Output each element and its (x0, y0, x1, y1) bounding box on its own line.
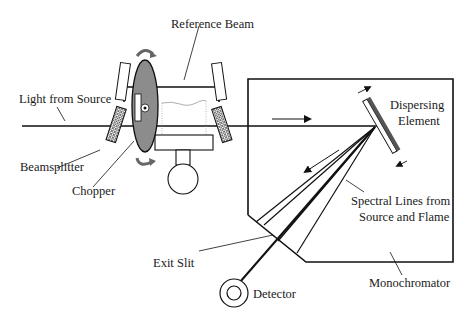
label-detector: Detector (253, 287, 296, 301)
label-beamsplitter: Beamsplitter (20, 160, 84, 174)
right-beamsplitter (212, 106, 232, 142)
burner-head (155, 135, 213, 150)
spectral-lines (256, 127, 375, 253)
label-spectral-lines-2: Source and Flame (359, 210, 449, 224)
nebulizer-bulb (168, 164, 198, 194)
right-mirror (212, 62, 227, 100)
left-beamsplitter (106, 106, 126, 142)
label-monochromator: Monochromator (369, 276, 450, 290)
leader-lines (57, 26, 402, 275)
detector-icon (220, 279, 248, 307)
chopper (132, 60, 158, 152)
label-reference-beam: Reference Beam (171, 17, 254, 31)
label-dispersing-element-2: Element (398, 114, 440, 128)
label-light-from-source: Light from Source (19, 92, 111, 106)
flame-region (162, 100, 206, 135)
rotation-arrow-bottom-icon (137, 158, 156, 166)
label-chopper: Chopper (72, 184, 115, 198)
burner-stem (176, 150, 190, 165)
grating-arrow-top-icon (358, 87, 370, 93)
rotation-arrow-top-icon (137, 50, 157, 58)
label-dispersing-element-1: Dispersing (390, 98, 444, 112)
left-mirror (115, 62, 130, 100)
label-exit-slit: Exit Slit (153, 256, 194, 270)
label-spectral-lines-1: Spectral Lines from (351, 194, 450, 208)
grating-arrow-bottom-icon (397, 161, 407, 166)
